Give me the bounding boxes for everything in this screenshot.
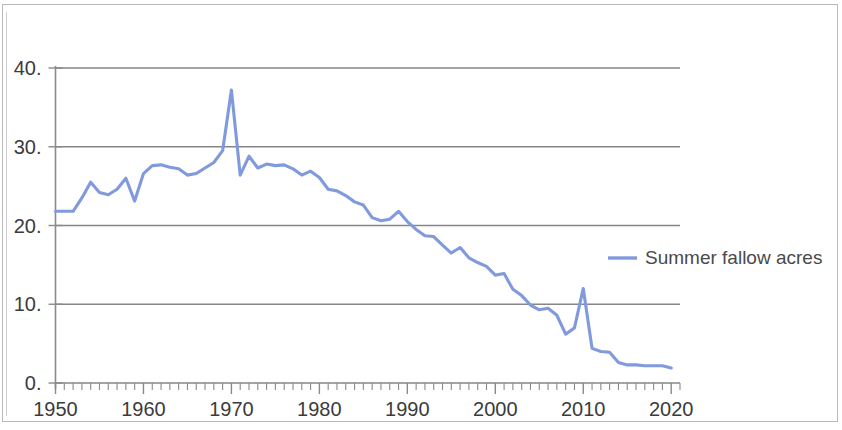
x-tick-label-2020: 2020 (649, 398, 694, 420)
legend-label-0: Summer fallow acres (645, 247, 822, 268)
x-tick-label-1990: 1990 (385, 398, 430, 420)
axes (49, 66, 63, 389)
y-tick-label-10: 10. (14, 293, 42, 315)
gridlines (56, 68, 681, 383)
x-tick-label-1950: 1950 (33, 398, 78, 420)
x-tick-label-2010: 2010 (561, 398, 606, 420)
y-axis-tick-labels: 0.10.20.30.40. (14, 57, 42, 394)
x-tick-label-1980: 1980 (297, 398, 342, 420)
y-tick-label-30: 30. (14, 136, 42, 158)
series-line-0 (56, 90, 672, 368)
x-axis-tick-labels: 19501960197019801990200020102020 (33, 398, 693, 420)
x-tick-label-2000: 2000 (473, 398, 518, 420)
chart-legend: Summer fallow acres (608, 247, 822, 268)
y-tick-label-20: 20. (14, 215, 42, 237)
series-lines (56, 90, 672, 368)
chart-svg: 0.10.20.30.40. 1950196019701980199020002… (0, 0, 842, 430)
line-chart: 0.10.20.30.40. 1950196019701980199020002… (0, 0, 842, 430)
x-tick-label-1960: 1960 (121, 398, 166, 420)
y-tick-label-0: 0. (25, 372, 42, 394)
x-tick-label-1970: 1970 (209, 398, 254, 420)
x-axis-tickmarks (56, 383, 681, 394)
chart-page: 0.10.20.30.40. 1950196019701980199020002… (0, 0, 842, 430)
y-tick-label-40: 40. (14, 57, 42, 79)
